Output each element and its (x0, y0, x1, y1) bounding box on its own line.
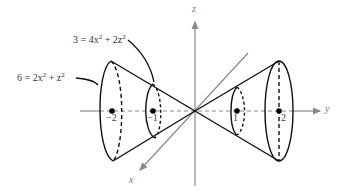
tick-neg2: −2 (106, 112, 117, 123)
equation-outer: 6 = 2x2 + z2 (17, 71, 65, 83)
diagram-canvas (0, 0, 348, 191)
equation-inner: 3 = 4x2 + 2z2 (73, 33, 126, 45)
tick-pos2: 2 (281, 112, 286, 123)
tick-neg1: −1 (147, 112, 158, 123)
y-axis-label: y (325, 103, 329, 114)
tick-pos1: 1 (233, 112, 238, 123)
leader-lines (76, 40, 154, 85)
z-axis-label: z (192, 3, 196, 14)
x-axis-label: x (129, 174, 133, 185)
cone-diagram: z y x −2 −1 1 2 3 = 4x2 + 2z2 6 = 2x2 + … (0, 0, 348, 191)
